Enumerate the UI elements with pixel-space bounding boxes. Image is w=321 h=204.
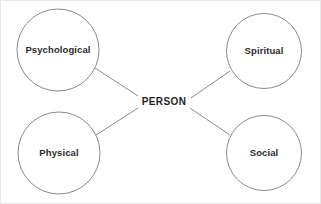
connector-physical-to-person [96,108,138,135]
connector-social-to-person [190,108,230,135]
node-label-spiritual: Spiritual [245,46,284,56]
connector-spiritual-to-person [191,71,230,98]
node-label-psychological: Psychological [25,45,90,55]
center-label-person: PERSON [142,97,187,107]
connector-psychological-to-person [95,68,138,96]
node-label-social: Social [250,148,279,158]
diagram-canvas: Psychological Spiritual Physical Social … [0,0,321,204]
node-label-physical: Physical [39,148,78,158]
